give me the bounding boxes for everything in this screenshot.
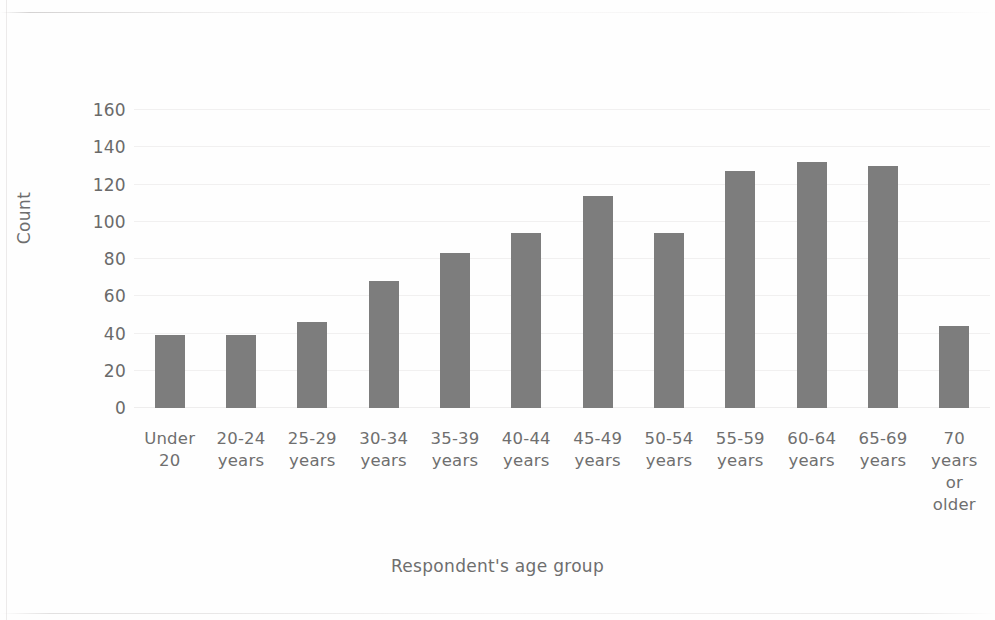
bar: [797, 162, 827, 408]
x-axis-tick-label-line: 40-44: [491, 428, 562, 450]
y-axis-tick-label: 80: [64, 251, 126, 268]
x-axis-tick-label-line: or: [919, 472, 990, 494]
y-axis-tick-label: 40: [64, 325, 126, 342]
x-axis-tick-label-line: years: [348, 450, 419, 472]
x-axis-tick-label-line: years: [419, 450, 490, 472]
x-axis-tick-label: 25-29years: [277, 428, 348, 472]
x-axis-tick-label-line: 20-24: [205, 428, 276, 450]
x-axis-tick-label: 60-64years: [776, 428, 847, 472]
x-axis-tick-label: 20-24years: [205, 428, 276, 472]
bar: [654, 233, 684, 408]
x-axis-tick-label-line: years: [491, 450, 562, 472]
x-axis-tick-label-line: years: [919, 450, 990, 472]
x-axis-tick-label-line: older: [919, 494, 990, 516]
y-axis-tick-label: 0: [64, 400, 126, 417]
x-axis-tick-label-line: years: [633, 450, 704, 472]
bar: [725, 171, 755, 408]
bar: [868, 166, 898, 408]
x-axis-tick-label-line: 70: [919, 428, 990, 450]
bar: [369, 281, 399, 408]
x-axis-tick-label: 50-54years: [633, 428, 704, 472]
x-axis-tick-label-line: years: [562, 450, 633, 472]
x-axis-tick-label-line: years: [705, 450, 776, 472]
x-axis-tick-label-line: 20: [134, 450, 205, 472]
x-axis-tick-label-line: 30-34: [348, 428, 419, 450]
y-axis-tick-label: 100: [64, 213, 126, 230]
y-axis-tick-label: 60: [64, 288, 126, 305]
x-axis-tick-label: 65-69years: [847, 428, 918, 472]
x-axis-tick-label-line: 60-64: [776, 428, 847, 450]
x-axis-tick-label: 55-59years: [705, 428, 776, 472]
x-axis-tick-label-line: 65-69: [847, 428, 918, 450]
bar: [511, 233, 541, 408]
x-axis-tick-label: 70yearsorolder: [919, 428, 990, 516]
x-axis-tick-label: 35-39years: [419, 428, 490, 472]
x-axis-tick-label-line: 35-39: [419, 428, 490, 450]
x-axis-tick-label-line: 50-54: [633, 428, 704, 450]
bar: [297, 322, 327, 408]
x-axis-tick-label: Under20: [134, 428, 205, 472]
bar-series: [134, 110, 990, 408]
bar: [155, 335, 185, 408]
y-axis-tick-label: 140: [64, 139, 126, 156]
bar-chart: Count 020406080100120140160 Under2020-24…: [0, 0, 995, 620]
x-axis-tick-label-line: years: [277, 450, 348, 472]
x-axis-tick-label: 45-49years: [562, 428, 633, 472]
y-axis-tick-label: 20: [64, 362, 126, 379]
x-axis-tick-label-line: years: [205, 450, 276, 472]
y-axis-tick-label: 120: [64, 176, 126, 193]
y-axis-tick-label: 160: [64, 102, 126, 119]
bar: [583, 196, 613, 408]
x-axis-tick-label-line: years: [776, 450, 847, 472]
x-axis-title: Respondent's age group: [0, 556, 995, 576]
x-axis-tick-label: 30-34years: [348, 428, 419, 472]
x-axis-tick-label-line: years: [847, 450, 918, 472]
x-axis-tick-label-line: 25-29: [277, 428, 348, 450]
bar: [939, 326, 969, 408]
x-axis-tick-label: 40-44years: [491, 428, 562, 472]
x-axis-tick-label-line: 55-59: [705, 428, 776, 450]
x-axis-tick-labels: Under2020-24years25-29years30-34years35-…: [134, 428, 990, 548]
x-axis-tick-label-line: Under: [134, 428, 205, 450]
bar: [440, 253, 470, 408]
y-axis-tick-labels: 020406080100120140160: [64, 110, 126, 408]
plot-area: [134, 110, 990, 408]
x-axis-tick-label-line: 45-49: [562, 428, 633, 450]
y-axis-title: Count: [14, 158, 34, 278]
bar: [226, 335, 256, 408]
